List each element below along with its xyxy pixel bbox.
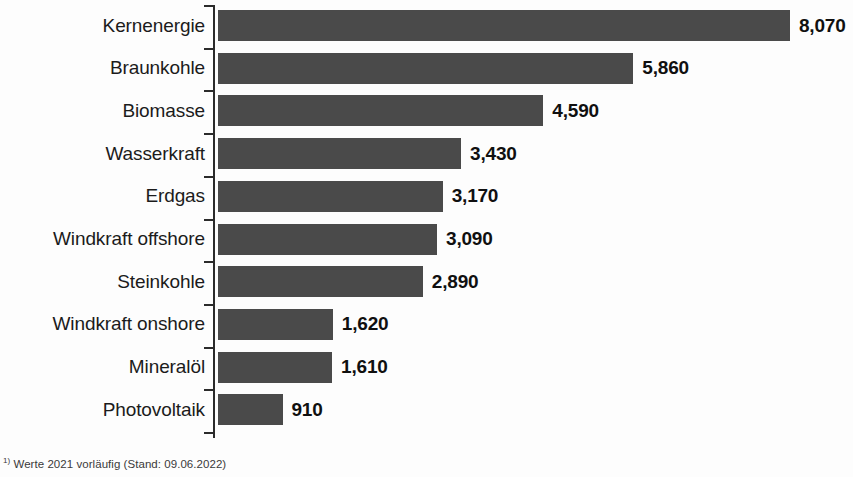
bar-row: Photovoltaik910 — [0, 394, 853, 425]
category-label: Wasserkraft — [105, 143, 205, 165]
bar-row: Biomasse4,590 — [0, 95, 853, 126]
chart-footnote: 1) Werte 2021 vorläufig (Stand: 09.06.20… — [3, 456, 226, 470]
bar-value-label: 1,610 — [341, 356, 388, 378]
category-label: Kernenergie — [103, 15, 205, 37]
bar-and-value: 1,610 — [218, 352, 388, 383]
bar-row: Mineralöl1,610 — [0, 352, 853, 383]
footnote-text: Werte 2021 vorläufig (Stand: 09.06.2022) — [13, 458, 226, 470]
axis-tick — [204, 432, 214, 434]
bar — [218, 138, 461, 169]
bar-row: Windkraft onshore1,620 — [0, 309, 853, 340]
bar-value-label: 4,590 — [552, 100, 599, 122]
axis-tick — [204, 304, 214, 306]
bar — [218, 53, 633, 84]
bar-row: Erdgas3,170 — [0, 181, 853, 212]
bar — [218, 309, 333, 340]
bar — [218, 224, 437, 255]
footnote-marker: 1) — [3, 456, 10, 465]
bar-chart: Kernenergie8,070Braunkohle5,860Biomasse4… — [0, 0, 853, 477]
bar — [218, 181, 443, 212]
bar-value-label: 2,890 — [432, 271, 479, 293]
axis-tick — [204, 48, 214, 50]
bar-and-value: 5,860 — [218, 53, 689, 84]
bar-and-value: 910 — [218, 394, 323, 425]
axis-tick — [204, 347, 214, 349]
category-label: Windkraft onshore — [53, 313, 205, 335]
bar-value-label: 1,620 — [342, 313, 389, 335]
axis-tick — [204, 133, 214, 135]
category-label: Photovoltaik — [103, 399, 205, 421]
bar-value-label: 910 — [292, 399, 323, 421]
bar-value-label: 3,170 — [452, 185, 499, 207]
bar-value-label: 3,430 — [470, 143, 517, 165]
bar-and-value: 3,430 — [218, 138, 517, 169]
bar-row: Windkraft offshore3,090 — [0, 224, 853, 255]
bar-row: Wasserkraft3,430 — [0, 138, 853, 169]
axis-tick — [204, 176, 214, 178]
bar-and-value: 8,070 — [218, 10, 846, 41]
bar-value-label: 5,860 — [642, 57, 689, 79]
bar-and-value: 3,170 — [218, 181, 498, 212]
bar-value-label: 8,070 — [799, 15, 846, 37]
category-label: Erdgas — [145, 185, 205, 207]
axis-tick — [204, 5, 214, 7]
plot-area: Kernenergie8,070Braunkohle5,860Biomasse4… — [0, 0, 853, 445]
bar-row: Kernenergie8,070 — [0, 10, 853, 41]
axis-tick — [204, 219, 214, 221]
category-label: Mineralöl — [129, 356, 205, 378]
bar — [218, 95, 543, 126]
bar — [218, 10, 790, 41]
bar — [218, 266, 423, 297]
category-label: Braunkohle — [110, 57, 205, 79]
category-label: Windkraft offshore — [53, 228, 205, 250]
axis-tick — [204, 261, 214, 263]
bar — [218, 352, 332, 383]
bar-and-value: 4,590 — [218, 95, 599, 126]
category-label: Steinkohle — [117, 271, 205, 293]
bar-value-label: 3,090 — [446, 228, 493, 250]
axis-tick — [204, 389, 214, 391]
category-label: Biomasse — [122, 100, 205, 122]
bar-row: Steinkohle2,890 — [0, 266, 853, 297]
bar — [218, 394, 283, 425]
axis-tick — [204, 90, 214, 92]
bar-row: Braunkohle5,860 — [0, 53, 853, 84]
bar-and-value: 2,890 — [218, 266, 478, 297]
bar-and-value: 3,090 — [218, 224, 493, 255]
bar-and-value: 1,620 — [218, 309, 388, 340]
